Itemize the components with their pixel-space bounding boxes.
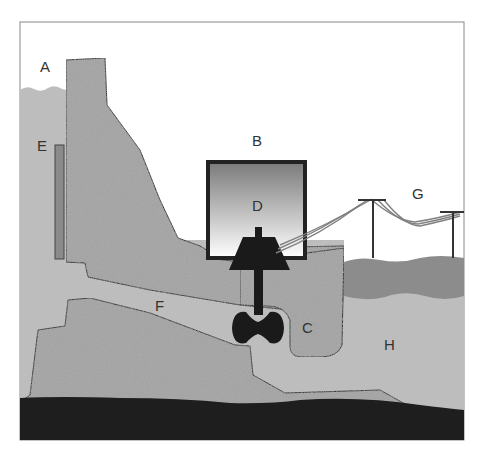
label-c-turbine: C [302, 319, 313, 336]
river-surface [344, 256, 464, 299]
label-g-powerlines: G [412, 185, 424, 202]
label-h-river: H [384, 336, 395, 353]
label-f-penstock: F [155, 297, 164, 314]
hydroelectric-dam-diagram: A B C D E F G H [0, 0, 484, 458]
label-d-generator: D [252, 197, 263, 214]
label-e-intake: E [37, 137, 47, 154]
bedrock [20, 397, 464, 440]
intake-gate [55, 145, 64, 259]
label-a-reservoir: A [40, 58, 50, 75]
label-b-powerhouse: B [252, 132, 262, 149]
